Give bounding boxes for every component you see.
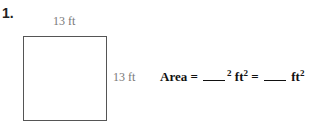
problem-number: 1.	[2, 5, 14, 21]
squared-exponent: 2	[227, 68, 232, 78]
unit-exponent: 2	[244, 68, 249, 78]
square-figure	[23, 36, 107, 121]
area-equation: Area = 2 ft2 = ft2	[160, 69, 304, 85]
answer-blank-1[interactable]	[203, 69, 225, 81]
top-side-length-label: 13 ft	[53, 14, 75, 29]
equals-sign: =	[251, 69, 258, 84]
answer-blank-2[interactable]	[264, 69, 286, 81]
unit-label-2: ft	[291, 69, 300, 84]
right-side-length-label: 13 ft	[113, 70, 135, 85]
unit-label: ft	[235, 69, 244, 84]
unit-exponent-2: 2	[300, 68, 305, 78]
area-label: Area =	[160, 69, 198, 84]
